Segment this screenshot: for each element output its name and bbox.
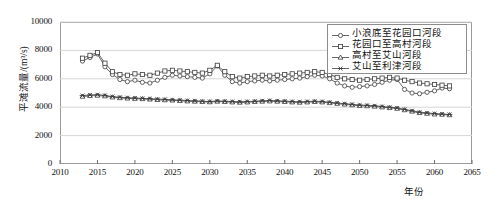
- legend-item-3[interactable]: 艾山至利津河段: [330, 60, 463, 71]
- x-tick-label: 2040: [265, 167, 305, 177]
- x-tick-label: 2045: [302, 167, 342, 177]
- x-tick-label: 2015: [77, 167, 117, 177]
- x-tick-label: 2055: [377, 167, 417, 177]
- legend-label: 花园口至高村河段: [352, 38, 432, 49]
- legend-item-1[interactable]: 花园口至高村河段: [330, 38, 463, 49]
- y-axis-title: 平滩流量/(m³/s): [16, 14, 30, 144]
- bankfull-discharge-chart: 0200040006000800010000 20102015202020252…: [0, 0, 498, 203]
- x-tick-label: 2010: [40, 167, 80, 177]
- legend-item-2[interactable]: 高村至艾山河段: [330, 49, 463, 60]
- x-tick-label: 2060: [415, 167, 455, 177]
- legend-label: 小浪底至花园口河段: [352, 27, 442, 38]
- legend-label: 高村至艾山河段: [352, 49, 422, 60]
- circle-marker-icon: [330, 27, 352, 38]
- legend-item-0[interactable]: 小浪底至花园口河段: [330, 27, 463, 38]
- x-tick-label: 2025: [152, 167, 192, 177]
- legend: 小浪底至花园口河段花园口至高村河段高村至艾山河段艾山至利津河段: [327, 24, 467, 74]
- series-asterisk: [80, 93, 453, 117]
- legend-label: 艾山至利津河段: [352, 60, 422, 71]
- x-tick-label: 2035: [227, 167, 267, 177]
- x-tick-label: 2065: [452, 167, 492, 177]
- asterisk-marker-icon: [330, 60, 352, 71]
- triangle-marker-icon: [330, 49, 352, 60]
- x-tick-label: 2030: [190, 167, 230, 177]
- square-marker-icon: [330, 38, 352, 49]
- x-tick-label: 2020: [115, 167, 155, 177]
- x-axis-title: 年份: [404, 184, 424, 198]
- x-tick-label: 2050: [340, 167, 380, 177]
- x-tick-marks: [60, 160, 472, 164]
